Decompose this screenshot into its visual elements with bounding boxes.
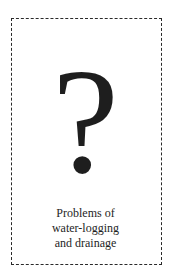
caption-line-3: and drainage: [0, 236, 171, 251]
caption-line-1: Problems of: [0, 206, 171, 221]
caption-line-2: water-logging: [0, 221, 171, 236]
question-mark-icon: ?: [0, 46, 171, 196]
card-caption: Problems of water-logging and drainage: [0, 206, 171, 251]
